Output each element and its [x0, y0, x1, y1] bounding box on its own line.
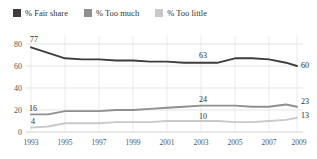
data-label-fair-share-mid: 63: [199, 51, 207, 60]
data-label-fair-share-end: 60: [301, 61, 309, 70]
x-tick-label: 1995: [58, 138, 73, 147]
data-label-too-little-start: 4: [31, 117, 35, 126]
y-tick-label: 0: [18, 128, 22, 137]
y-tick-label: 60: [14, 62, 22, 71]
y-tick-label: 80: [14, 40, 22, 49]
x-tick-label: 2007: [262, 138, 277, 147]
legend-swatch-icon: [13, 9, 21, 17]
x-gridlines: [31, 36, 297, 132]
line-chart: 80 60 40 20 0 77 63 60 16 24 23 4 10 13 …: [0, 26, 317, 159]
legend-label: % Fair share: [25, 9, 68, 18]
y-gridlines: [26, 44, 303, 132]
x-tick-label: 1999: [126, 138, 141, 147]
x-tick-label: 2001: [160, 138, 175, 147]
data-label-too-little-end: 13: [301, 111, 309, 120]
y-axis-labels: 80 60 40 20 0: [14, 40, 22, 137]
legend-item-fair-share: % Fair share: [13, 9, 68, 18]
legend-label: % Too little: [167, 9, 207, 18]
x-tick-label: 1993: [24, 138, 39, 147]
data-label-fair-share-start: 77: [30, 35, 38, 44]
chart-plot-area: 80 60 40 20 0 77 63 60 16 24 23 4 10 13 …: [0, 26, 317, 159]
x-tick-label: 1997: [92, 138, 107, 147]
series-line-too-little: [31, 118, 297, 128]
x-tick-label: 2005: [228, 138, 243, 147]
series-line-too-much: [31, 105, 297, 115]
y-tick-label: 40: [14, 84, 22, 93]
data-label-too-much-end: 23: [301, 97, 309, 106]
legend-label: % Too much: [96, 9, 139, 18]
y-tick-label: 20: [14, 106, 22, 115]
legend-swatch-icon: [84, 9, 92, 17]
x-tick-label: 2003: [194, 138, 209, 147]
x-axis-labels: 1993 1995 1997 1999 2001 2003 2005 2007 …: [24, 138, 307, 147]
x-tick-label: 2009: [292, 138, 307, 147]
chart-legend: % Fair share % Too much % Too little: [0, 0, 317, 26]
legend-item-too-much: % Too much: [84, 9, 139, 18]
data-label-too-much-mid: 24: [199, 95, 207, 104]
legend-swatch-icon: [155, 9, 163, 17]
data-label-too-much-start: 16: [29, 104, 37, 113]
data-labels: 77 63 60 16 24 23 4 10 13: [29, 35, 309, 126]
series-line-fair-share: [31, 47, 297, 66]
legend-item-too-little: % Too little: [155, 9, 207, 18]
data-label-too-little-mid: 10: [199, 112, 207, 121]
